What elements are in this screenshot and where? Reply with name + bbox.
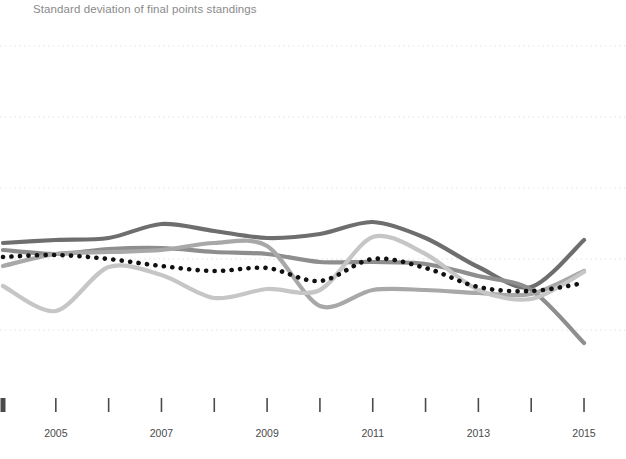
x-axis-label-2007: 2007 xyxy=(150,427,173,439)
x-axis-label-2015: 2015 xyxy=(572,427,595,439)
x-axis-label-2011: 2011 xyxy=(361,427,384,439)
series-line-series-5-dotted xyxy=(3,255,584,291)
x-axis-label-2013: 2013 xyxy=(467,427,490,439)
line-chart-plot xyxy=(0,0,626,459)
x-axis-labels: 200520072009201120132015 xyxy=(0,427,626,447)
x-axis-ticks xyxy=(3,398,584,412)
x-axis-label-2005: 2005 xyxy=(44,427,67,439)
chart-root: Standard deviation of final points stand… xyxy=(0,0,626,459)
series-layer xyxy=(3,222,584,343)
x-axis-label-2009: 2009 xyxy=(255,427,278,439)
